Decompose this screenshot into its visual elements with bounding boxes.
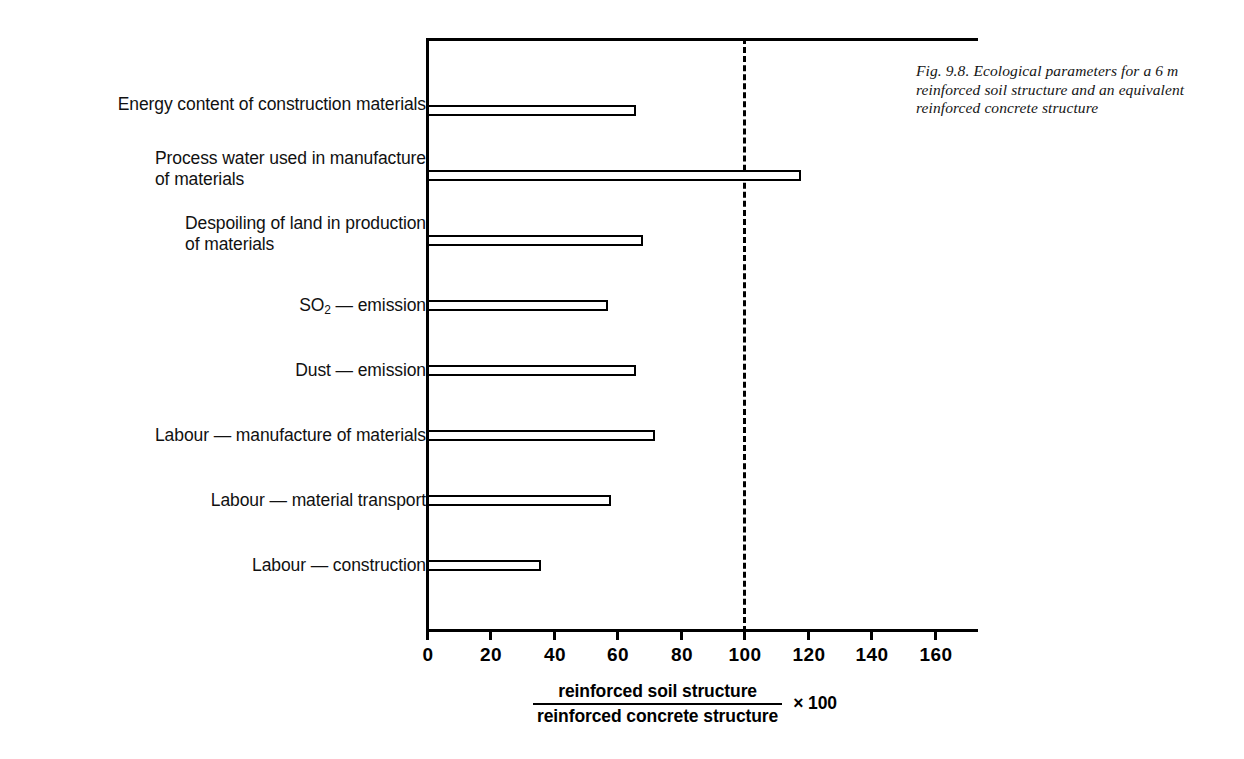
reference-line-100 [743,38,746,632]
category-label-process-water: Process water used in manufacture of mat… [155,148,426,190]
plot-top-rule [426,38,978,41]
bar-so2-emission [427,300,608,311]
bar-energy-content [427,105,636,116]
x-tick-label-140: 140 [855,644,888,666]
x-tick-80 [680,630,683,640]
bar-dust-emission [427,365,636,376]
x-tick-label-120: 120 [792,644,825,666]
x-tick-label-60: 60 [607,644,629,666]
x-tick-label-100: 100 [728,644,761,666]
x-tick-label-0: 0 [422,644,433,666]
x-tick-label-160: 160 [919,644,952,666]
category-label-labour-transport: Labour — material transport [211,490,426,511]
bar-labour-construction [427,560,541,571]
plot-area: 020406080100120140160 [426,38,978,632]
fraction-multiplier: × 100 [793,693,837,716]
ratio-fraction: reinforced soil structure reinforced con… [533,681,782,727]
x-tick-100 [743,630,746,640]
x-axis-line [426,629,978,632]
bar-despoiling-of-land [427,235,643,246]
x-tick-label-80: 80 [671,644,693,666]
fraction-numerator: reinforced soil structure [552,681,763,703]
x-tick-20 [489,630,492,640]
y-axis-line [426,38,429,632]
category-label-labour-manufacture: Labour — manufacture of materials [155,425,426,446]
x-tick-60 [616,630,619,640]
category-label-labour-construction: Labour — construction [252,555,426,576]
x-tick-label-20: 20 [480,644,502,666]
figure-caption: Fig. 9.8. Ecological parameters for a 6 … [916,62,1216,118]
category-label-energy-content: Energy content of construction materials [118,94,426,115]
x-tick-120 [807,630,810,640]
bar-process-water [427,170,801,181]
bar-labour-transport [427,495,611,506]
bar-labour-manufacture [427,430,655,441]
fraction-denominator: reinforced concrete structure [533,705,782,727]
x-tick-160 [934,630,937,640]
x-axis-title: reinforced soil structure reinforced con… [533,681,837,727]
category-label-dust-emission: Dust — emission [295,360,426,381]
category-label-so2-emission: SO2 — emission [299,295,426,321]
x-tick-label-40: 40 [544,644,566,666]
category-label-despoiling-of-land: Despoiling of land in production of mate… [185,213,426,255]
x-tick-40 [553,630,556,640]
x-tick-140 [870,630,873,640]
x-tick-0 [426,630,429,640]
